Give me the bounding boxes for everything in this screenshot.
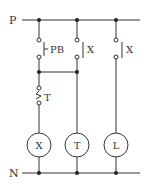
x-contact-label-1: X [87,44,95,55]
n-label: N [9,167,19,180]
lamp-l-label: L [113,140,120,151]
coil-t-label: T [74,140,81,151]
coil-x-label: X [35,140,43,151]
x-contact-label-2: X [126,44,134,55]
p-label: P [9,14,17,27]
timer-contact-symbol [36,91,41,99]
circuit-diagram: P N PB X X T X T L [0,0,152,191]
timer-contact-label: T [44,92,51,103]
pb-label: PB [50,44,64,55]
